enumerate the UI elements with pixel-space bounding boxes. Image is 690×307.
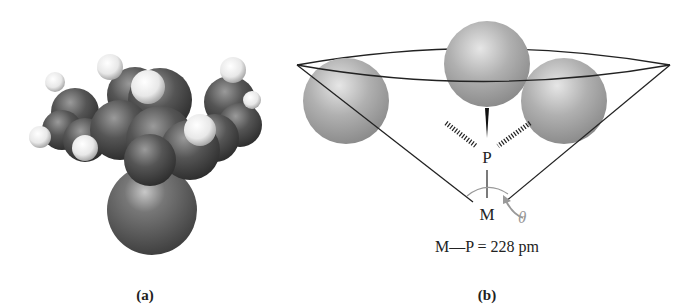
figure-canvas: (a) P M θ M—P = 228 pm (b): [0, 0, 690, 307]
substituent-sphere-right: [521, 58, 607, 144]
hashed-bond-right: [498, 123, 530, 146]
label-bond-length: M—P = 228 pm: [435, 238, 540, 256]
substituent-sphere-top: [444, 21, 530, 107]
panel-b-cone: [297, 21, 670, 218]
caption-b: (b): [478, 287, 496, 304]
label-phosphorus: P: [482, 148, 491, 167]
substituent-sphere-left: [303, 58, 389, 144]
panel-a-molecule: [29, 54, 262, 255]
label-angle-theta: θ: [518, 208, 526, 227]
label-metal: M: [479, 205, 494, 224]
hashed-bond-left: [446, 123, 476, 146]
caption-a: (a): [136, 287, 154, 304]
wedge-bond: [485, 108, 489, 138]
